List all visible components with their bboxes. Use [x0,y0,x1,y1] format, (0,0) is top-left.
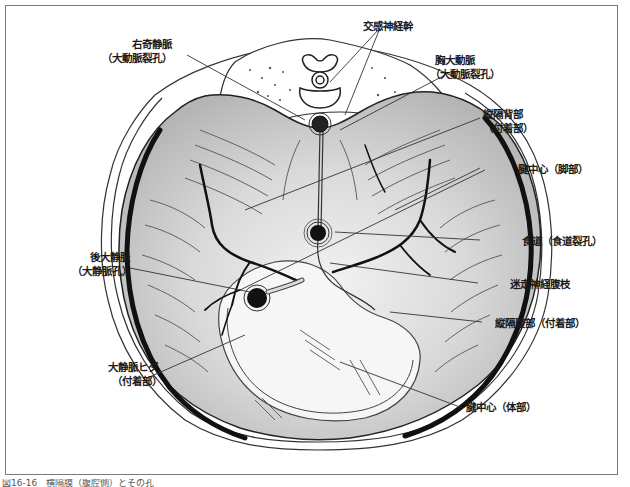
aortic-hiatus [309,113,331,135]
label-thoracic-aorta: 胸大動脈 （大動脈裂孔） [430,53,500,81]
figure-caption: 図16-16 横隔膜（腹腔側）とその孔 [2,479,154,487]
label-caudal-vena-cava: 後大静脈 （大静脈孔） [72,250,132,278]
label-central-tendon-body: 腱中心（体部） [466,400,536,414]
label-vena-cava-fold: 大静脈ヒダ （付着部） [108,360,162,388]
label-azygos-vein: 右奇静脈 （大動脈裂孔） [102,37,172,65]
label-vagal-trunk: 迷走神経腹枝 [510,277,570,291]
label-ventral-mediastinum: 縦隔腹部（付着部） [495,316,585,330]
label-dorsal-mediastinum: 縦隔背部 （付着部） [483,107,533,135]
label-central-tendon-crus: 腱中心（脚部） [518,162,588,176]
label-sympathetic-trunk: 交感神経幹 [363,19,413,33]
label-esophagus: 食道（食道裂孔） [522,234,602,248]
